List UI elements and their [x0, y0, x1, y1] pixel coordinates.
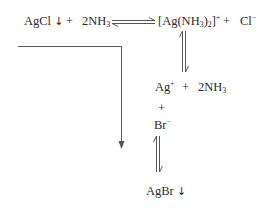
- equilibrium-vertical-upper-arrow-icon: [180, 31, 189, 72]
- equilibrium-vertical-lower-arrow-icon: [154, 136, 163, 172]
- equilibrium-diagram: AgCl ↓ + 2NH3 [Ag(NH3)2]+ + Cl− Ag+ + 2N…: [0, 0, 265, 210]
- arrowhead-icon: [119, 141, 125, 149]
- equilibrium-horizontal-arrow-icon: [112, 18, 155, 27]
- l-shaped-arrow-icon: [18, 47, 122, 147]
- arrows-layer: [0, 0, 265, 210]
